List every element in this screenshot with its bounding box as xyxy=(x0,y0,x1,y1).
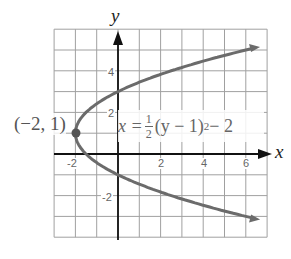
x-tick-label: -2 xyxy=(66,158,78,169)
y-tick-label: -2 xyxy=(101,192,113,203)
vertex-point xyxy=(72,129,81,138)
x-tick-label: 2 xyxy=(157,158,165,169)
y-tick-label: 4 xyxy=(107,67,115,78)
equation-label: x = 1 2 (y − 1)2 − 2 xyxy=(118,110,264,142)
x-axis-arrow-icon xyxy=(258,149,272,159)
vertex-label: (−2, 1) xyxy=(14,113,66,135)
x-tick-label: 4 xyxy=(200,158,208,169)
y-axis-label: y xyxy=(111,5,119,27)
x-tick-label: 6 xyxy=(242,158,250,169)
fraction-denominator: 2 xyxy=(146,128,152,140)
curve-arrow-top-icon xyxy=(249,44,260,52)
fraction-numerator: 1 xyxy=(146,113,152,125)
y-axis-arrow-icon xyxy=(113,31,123,45)
y-tick-label: 2 xyxy=(107,108,115,119)
equation-base: (y − 1) xyxy=(155,116,204,137)
equation-tail: − 2 xyxy=(209,116,233,137)
equation-fraction: 1 2 xyxy=(145,113,153,140)
curve-arrow-bottom-icon xyxy=(249,214,260,222)
x-axis-label: x xyxy=(275,141,283,163)
equation-lhs: x = xyxy=(118,116,143,137)
